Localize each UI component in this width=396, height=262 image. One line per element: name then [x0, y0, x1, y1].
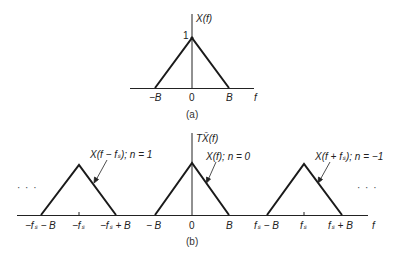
figure-a-tick-b: B: [226, 93, 233, 103]
figure-b-tick-neg-fs-plus-b: −fₛ + B: [100, 221, 131, 231]
figure-a-ylabel: X(f): [196, 14, 212, 24]
figure-a-tick-zero: 0: [189, 93, 195, 103]
ellipsis-left: · · ·: [17, 182, 38, 193]
figure-b-tick-fs-minus-b: fₛ − B: [254, 221, 279, 231]
figure-b-triangle-left: [41, 165, 116, 215]
figure-b-tick-b: B: [226, 221, 233, 231]
figure-b-triangle-right: [267, 164, 342, 215]
figure-b-tick-zero: 0: [189, 221, 195, 231]
figure-a-xlabel: f: [254, 93, 257, 103]
figure-b-tick-fs: fₛ: [300, 221, 307, 231]
annotation-right: X(f + fₛ); n = −1: [315, 152, 383, 162]
figure-b-tick-neg-fs-minus-b: −fₛ − B: [25, 221, 56, 231]
figure-b-axes: [17, 133, 368, 216]
figure-a-tick-neg-b: −B: [149, 93, 162, 103]
figure-a-caption: (a): [186, 110, 198, 120]
figure-b-xlabel: f: [372, 221, 375, 231]
figure-a-peak-label: 1: [183, 31, 189, 41]
figure-b-caption: (b): [186, 237, 198, 247]
figure-a-axes: [130, 14, 254, 89]
figure-b-tick-fs-plus-b: fₛ + B: [328, 221, 353, 231]
figure-b-tick-neg-fs: −fₛ: [72, 221, 85, 231]
annotation-left: X(f − fₛ); n = 1: [90, 150, 152, 160]
figure-a-peak-dot: [190, 36, 193, 39]
ellipsis-right: · · ·: [357, 182, 378, 193]
figure-b-ylabel: TX̄(f): [196, 134, 218, 144]
annotation-center: X(f); n = 0: [206, 152, 250, 162]
figure-b-tick-neg-b: − B: [146, 221, 161, 231]
annotation-arrows: [94, 160, 330, 183]
